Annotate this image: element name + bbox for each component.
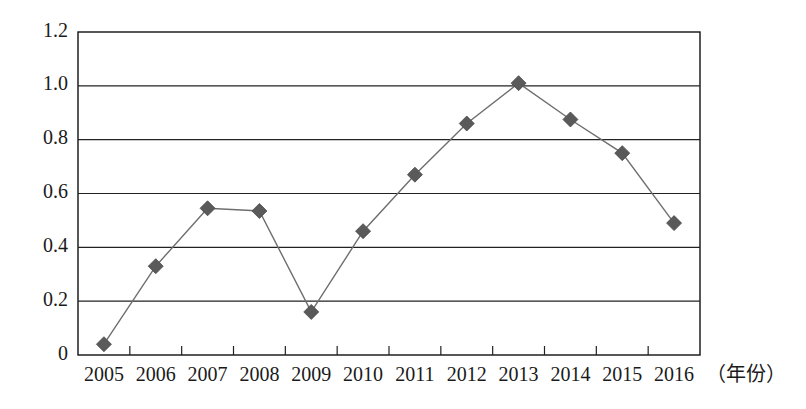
x-axis-tick-label: 2010 — [343, 363, 383, 385]
data-point-marker — [563, 112, 578, 127]
x-axis-tick-label: 2013 — [499, 363, 539, 385]
y-axis-tick-label: 0.6 — [43, 180, 68, 202]
x-axis-tick-label: 2016 — [654, 363, 694, 385]
x-axis-unit-label: （年份） — [706, 363, 786, 385]
chart-canvas: 00.20.40.60.81.01.2200520062007200820092… — [0, 0, 806, 409]
data-point-marker — [304, 304, 319, 319]
y-axis-tick-label: 0.4 — [43, 234, 68, 256]
y-axis-tick-label: 0.2 — [43, 288, 68, 310]
x-axis-tick-label: 2012 — [447, 363, 487, 385]
y-axis-tick-label: 0 — [58, 342, 68, 364]
data-point-marker — [96, 337, 111, 352]
data-point-marker — [615, 146, 630, 161]
data-point-marker — [667, 216, 682, 231]
x-axis-tick-label: 2008 — [239, 363, 279, 385]
line-chart: 00.20.40.60.81.01.2200520062007200820092… — [0, 0, 806, 409]
y-axis-tick-label: 0.8 — [43, 126, 68, 148]
x-axis-tick-label: 2006 — [136, 363, 176, 385]
x-axis-tick-label: 2011 — [395, 363, 434, 385]
data-point-marker — [511, 76, 526, 91]
data-point-marker — [252, 203, 267, 218]
x-axis-tick-label: 2007 — [188, 363, 228, 385]
y-axis-tick-label: 1.0 — [43, 72, 68, 94]
x-axis-tick-label: 2005 — [84, 363, 124, 385]
data-series-line — [104, 83, 674, 344]
x-axis-tick-label: 2009 — [291, 363, 331, 385]
y-axis-tick-label: 1.2 — [43, 19, 68, 41]
x-axis-tick-label: 2014 — [550, 363, 590, 385]
x-axis-tick-label: 2015 — [602, 363, 642, 385]
